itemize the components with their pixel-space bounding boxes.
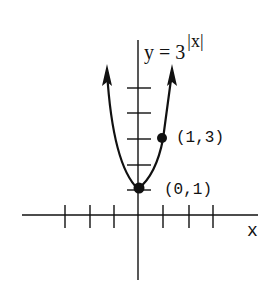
- right-arrowhead-icon: [167, 64, 177, 86]
- point-0-1: [134, 183, 145, 194]
- x-axis-label: x: [247, 222, 258, 240]
- point-label-0-1: (0,1): [164, 182, 212, 198]
- equation-exponent: |x|: [187, 31, 203, 51]
- equation-label: y = 3|x|: [144, 42, 204, 62]
- point-label-1-3: (1,3): [176, 130, 224, 146]
- point-1-3: [157, 133, 167, 143]
- y-axis-ticks: [127, 88, 151, 190]
- x-axis-ticks: [65, 205, 213, 228]
- graph-canvas: [0, 0, 280, 288]
- curve-path: [107, 72, 172, 189]
- equation-base: y = 3: [144, 41, 185, 63]
